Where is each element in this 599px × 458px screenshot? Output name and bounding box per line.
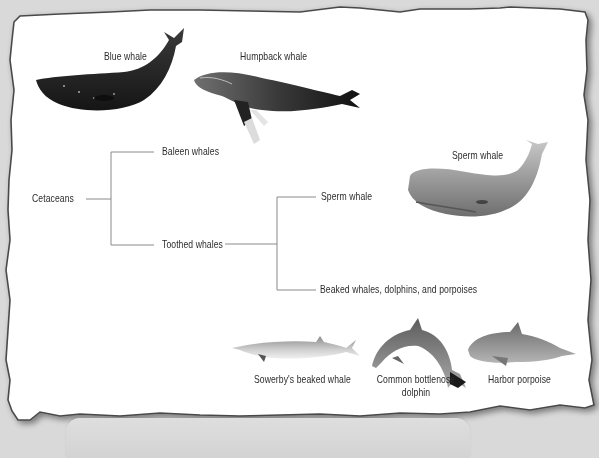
node-baleen-whales: Baleen whales [162,145,219,157]
label-blue-whale: Blue whale [104,50,147,62]
label-sowerbys-beaked-whale: Sowerby's beaked whale [254,373,351,385]
node-toothed-whales: Toothed whales [162,238,223,250]
node-cetaceans: Cetaceans [32,192,74,204]
label-sperm-whale: Sperm whale [452,149,503,161]
blue-whale-illustration [34,28,194,118]
label-bottlenose-dolphin-line1: Common bottlenose [375,373,457,385]
humpback-whale-illustration [192,70,364,145]
sowerbys-beaked-whale-illustration [232,334,362,364]
label-harbor-porpoise: Harbor porpoise [488,373,551,385]
harbor-porpoise-illustration [466,322,578,370]
label-bottlenose-dolphin-line2: dolphin [375,386,457,398]
node-beaked-dolphins-porpoises: Beaked whales, dolphins, and porpoises [320,283,477,295]
label-humpback-whale: Humpback whale [240,50,307,62]
node-sperm-whale: Sperm whale [321,190,372,202]
